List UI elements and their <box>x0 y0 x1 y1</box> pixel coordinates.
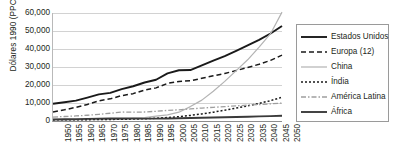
legend-label: Índia <box>331 77 349 86</box>
x-tick-label: 1990 <box>144 107 153 137</box>
x-tick-label: 2000 <box>167 107 176 137</box>
x-tick-label: 2005 <box>178 107 187 137</box>
x-tick-label: 1960 <box>75 107 84 137</box>
chart-legend: Estados UnidosEuropa (12)ChinaÍndiaAméri… <box>296 24 389 122</box>
legend-label: Estados Unidos <box>331 32 388 41</box>
legend-line-swatch-icon <box>301 107 327 117</box>
x-tick-label: 1950 <box>52 107 61 137</box>
x-tick-label: 1980 <box>121 107 130 137</box>
x-tick-label: 1955 <box>63 107 72 137</box>
x-axis-tick-labels: 1950195519601965197019751980198519901995… <box>52 122 281 164</box>
legend-item[interactable]: Índia <box>301 74 385 89</box>
x-tick-label: 2050 <box>281 107 290 137</box>
y-tick-label: 40,000 <box>16 45 50 53</box>
x-tick-label: 2015 <box>201 107 210 137</box>
legend-line-swatch-icon <box>301 77 327 87</box>
x-tick-label: 1985 <box>132 107 141 137</box>
x-tick-label: 1975 <box>109 107 118 137</box>
x-tick-label: 2045 <box>270 107 279 137</box>
x-tick-label: 2025 <box>224 107 233 137</box>
x-tick-label: 1970 <box>98 107 107 137</box>
series-line-europa-12 <box>53 55 282 112</box>
legend-item[interactable]: China <box>301 59 385 74</box>
y-tick-label: 60,000 <box>16 9 50 17</box>
legend-line-swatch-icon <box>301 62 327 72</box>
x-tick-label: 2040 <box>258 107 267 137</box>
series-line-estados-unidos <box>53 26 282 104</box>
line-chart: Dólares 1990 (PPC) 010,00020,00030,00040… <box>0 0 393 164</box>
y-tick-label: 10,000 <box>16 99 50 107</box>
y-tick-label: 20,000 <box>16 81 50 89</box>
x-tick-label: 2035 <box>247 107 256 137</box>
y-tick-label: 30,000 <box>16 63 50 71</box>
legend-label: Europa (12) <box>331 47 374 56</box>
legend-label: América Latina <box>331 92 386 101</box>
plot-area <box>52 13 282 122</box>
x-tick-label: 2020 <box>212 107 221 137</box>
x-tick-label: 1995 <box>155 107 164 137</box>
legend-item[interactable]: Europa (12) <box>301 44 385 59</box>
legend-item[interactable]: Estados Unidos <box>301 29 385 44</box>
y-tick-label: 0 <box>16 117 50 125</box>
legend-line-swatch-icon <box>301 92 327 102</box>
x-tick-label: 2030 <box>235 107 244 137</box>
y-axis-tick-labels: 010,00020,00030,00040,00050,00060,000 <box>16 7 50 129</box>
series-lines <box>53 13 282 121</box>
legend-item[interactable]: América Latina <box>301 89 385 104</box>
legend-label: África <box>331 107 352 116</box>
y-tick-label: 50,000 <box>16 27 50 35</box>
legend-line-swatch-icon <box>301 47 327 57</box>
legend-item[interactable]: África <box>301 104 385 119</box>
x-tick-label: 1965 <box>86 107 95 137</box>
x-tick-label: 2010 <box>189 107 198 137</box>
legend-label: China <box>331 62 352 71</box>
legend-line-swatch-icon <box>301 32 327 42</box>
